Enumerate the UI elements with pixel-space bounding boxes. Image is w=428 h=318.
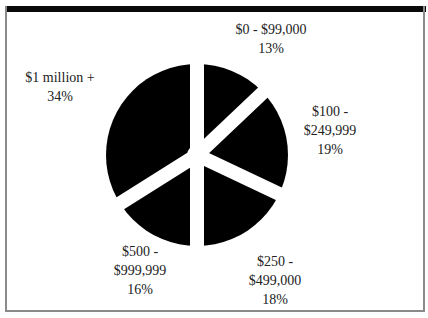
label-slice-1m-plus: $1 million + 34% [10, 68, 110, 106]
label-slice-0-99k: $0 - $99,000 13% [226, 20, 316, 58]
label-range-2: $999,999 [100, 261, 180, 280]
pie-chart [0, 0, 428, 318]
label-slice-250k-499k: $250 - $499,000 18% [235, 252, 315, 309]
label-percent: 13% [226, 39, 316, 58]
label-percent: 19% [290, 140, 370, 159]
label-range: $100 - [290, 102, 370, 121]
label-range-2: $499,000 [235, 271, 315, 290]
label-slice-100k-249k: $100 - $249,999 19% [290, 102, 370, 159]
label-range: $250 - [235, 252, 315, 271]
label-slice-500k-999k: $500 - $999,999 16% [100, 242, 180, 299]
label-percent: 16% [100, 280, 180, 299]
label-range: $500 - [100, 242, 180, 261]
label-range: $1 million + [10, 68, 110, 87]
label-range: $0 - $99,000 [226, 20, 316, 39]
label-percent: 18% [235, 290, 315, 309]
label-range-2: $249,999 [290, 121, 370, 140]
label-percent: 34% [10, 87, 110, 106]
